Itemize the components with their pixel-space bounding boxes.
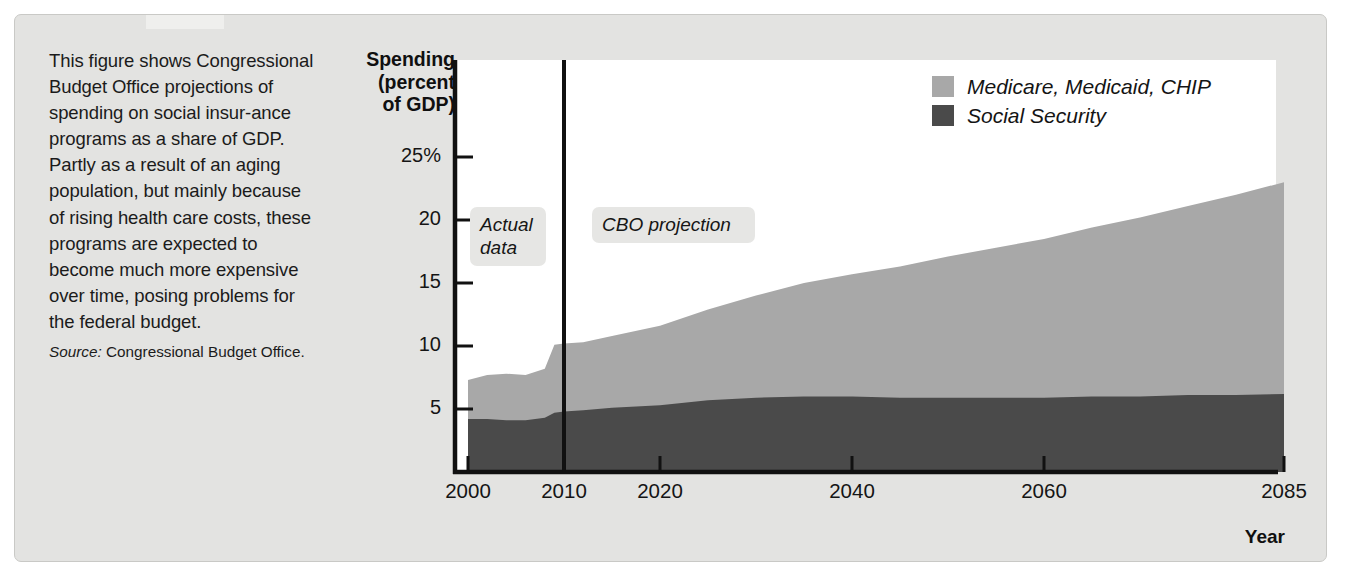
- y-tick-label: 10: [367, 333, 441, 356]
- legend-swatch-social-security: [932, 105, 954, 126]
- legend: Medicare, Medicaid, CHIP Social Security: [932, 72, 1211, 130]
- x-tick-label: 2020: [615, 479, 705, 503]
- y-tick-label: 5: [367, 396, 441, 419]
- y-tick-label: 15: [367, 270, 441, 293]
- legend-item-medicare: Medicare, Medicaid, CHIP: [932, 72, 1211, 101]
- x-axis-title: Year: [1195, 526, 1285, 548]
- chart-area: Spending(percentof GDP) 510152025% 20002…: [15, 15, 1328, 563]
- legend-swatch-medicare: [932, 76, 954, 97]
- legend-label-medicare: Medicare, Medicaid, CHIP: [967, 75, 1211, 99]
- annotation-cbo-projection: CBO projection: [592, 207, 755, 243]
- x-tick-label: 2000: [423, 479, 513, 503]
- y-tick-label: 25%: [367, 144, 441, 167]
- annotation-actual-data: Actualdata: [470, 207, 546, 266]
- legend-label-social-security: Social Security: [967, 104, 1106, 128]
- x-tick-label: 2010: [519, 479, 609, 503]
- figure-panel: This figure shows Congressional Budget O…: [14, 14, 1327, 562]
- y-tick-label: 20: [367, 207, 441, 230]
- x-tick-label: 2085: [1239, 479, 1329, 503]
- x-tick-label: 2060: [999, 479, 1089, 503]
- legend-item-social-security: Social Security: [932, 101, 1211, 130]
- x-tick-label: 2040: [807, 479, 897, 503]
